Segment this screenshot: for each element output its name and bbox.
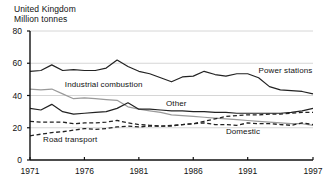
series-label-other: Other (166, 99, 187, 108)
y-tick-label: 0 (6, 155, 22, 165)
series-label-power-stations: Power stations (259, 66, 313, 75)
x-tick-label: 1997 (296, 166, 330, 176)
x-tick-label: 1981 (122, 166, 156, 176)
series-label-industrial-combustion: Industrial combustion (65, 80, 143, 89)
y-tick-label: 80 (6, 26, 22, 36)
series-label-domestic: Domestic (226, 127, 260, 136)
chart-figure: United Kingdom Million tonnes 020406080 … (0, 0, 333, 187)
series-label-road-transport: Road transport (43, 135, 97, 144)
x-tick-label: 1971 (13, 166, 47, 176)
x-tick-label: 1986 (176, 166, 210, 176)
x-tick-label: 1976 (67, 166, 101, 176)
y-tick-label: 20 (6, 123, 22, 133)
plot-area (0, 0, 333, 187)
y-tick-label: 40 (6, 91, 22, 101)
x-tick-label: 1991 (231, 166, 265, 176)
y-tick-label: 60 (6, 58, 22, 68)
